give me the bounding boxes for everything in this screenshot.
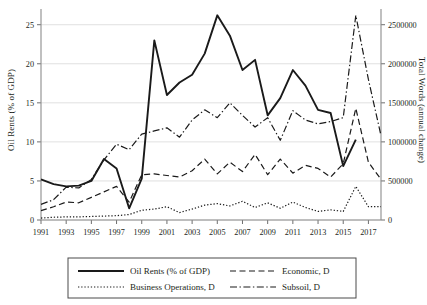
gridlines	[41, 25, 381, 220]
x-axis-ticks: 1991199319951997199920012003200520072009…	[33, 220, 377, 237]
svg-text:2009: 2009	[259, 228, 275, 237]
svg-text:10: 10	[26, 138, 34, 147]
legend-label: Subsoil, D	[282, 282, 321, 292]
svg-text:2001: 2001	[159, 228, 175, 237]
svg-text:1999: 1999	[134, 228, 150, 237]
y-axis-left-ticks: 0510152025	[26, 21, 41, 225]
data-series	[41, 15, 381, 218]
svg-text:2007: 2007	[234, 228, 250, 237]
svg-text:2011: 2011	[285, 228, 301, 237]
svg-text:2013: 2013	[310, 228, 326, 237]
svg-text:2500000: 2500000	[388, 21, 417, 30]
svg-text:2003: 2003	[184, 228, 200, 237]
y-axis-right-ticks: 05000001000000150000020000002500000	[381, 21, 417, 225]
series-line	[41, 186, 381, 218]
svg-text:0: 0	[30, 216, 34, 225]
series-line	[41, 15, 356, 208]
svg-text:1500000: 1500000	[388, 99, 417, 108]
svg-text:25: 25	[26, 21, 34, 30]
svg-text:2000000: 2000000	[388, 60, 417, 69]
svg-text:15: 15	[26, 99, 34, 108]
svg-text:500000: 500000	[388, 177, 413, 186]
svg-text:1991: 1991	[33, 228, 49, 237]
svg-text:1997: 1997	[108, 228, 124, 237]
svg-text:20: 20	[26, 60, 34, 69]
svg-text:5: 5	[30, 177, 34, 186]
svg-text:2005: 2005	[209, 228, 225, 237]
series-line	[41, 108, 381, 210]
svg-text:1993: 1993	[58, 228, 74, 237]
legend-label: Economic, D	[282, 266, 330, 276]
legend-label: Oil Rents (% of GDP)	[130, 266, 210, 276]
axis-spines	[41, 9, 381, 220]
svg-text:2015: 2015	[335, 228, 351, 237]
svg-text:1995: 1995	[83, 228, 99, 237]
svg-text:1000000: 1000000	[388, 138, 417, 147]
legend-label: Business Operations, D	[130, 282, 215, 292]
svg-text:2017: 2017	[360, 228, 376, 237]
series-line	[41, 15, 381, 204]
svg-text:0: 0	[388, 216, 392, 225]
chart-legend: Oil Rents (% of GDP)Economic, DBusiness …	[68, 258, 356, 298]
